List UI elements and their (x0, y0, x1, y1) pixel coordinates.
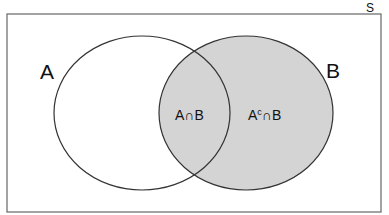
region-a-intersect-b-label: A∩B (175, 107, 204, 123)
set-a-label: A (40, 60, 54, 83)
universe-label: S (366, 1, 374, 15)
set-b-label: B (326, 59, 340, 82)
venn-diagram: S A B A∩B Ac∩B (0, 0, 389, 215)
label-rest: ∩B (262, 107, 281, 123)
region-a-complement-intersect-b-label: Ac∩B (248, 107, 281, 123)
